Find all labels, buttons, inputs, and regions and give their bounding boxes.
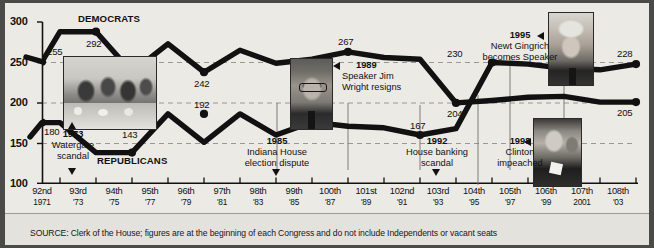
x-axis-label-99th: 99th '85 [274, 186, 314, 207]
x-axis-label-100th: 100th '87 [310, 186, 350, 207]
x-axis-label-97th: 97th '81 [202, 186, 242, 207]
x-axis-label-96th: 96th '79 [166, 186, 206, 207]
annotation-1985-year: 1985 [222, 136, 332, 147]
annotation-1992: 1992 House banking scandal [385, 136, 489, 169]
x-axis-label-106th: 106th '99 [526, 186, 566, 207]
annotation-1989-line2: Wright resigns [342, 82, 401, 92]
x-axis-label-92nd: 92nd 1971 [22, 186, 62, 207]
series-label-democrats: DEMOCRATS [78, 13, 140, 24]
x-axis-label-98th: 98th '83 [238, 186, 278, 207]
annotation-1973-pointer-down-icon [68, 168, 76, 175]
x-axis-label-107th: 107th 2001 [562, 186, 602, 207]
annotation-1989: 1989 Speaker Jim Wright resigns [342, 60, 448, 93]
point-label-democrats-205: 205 [617, 107, 632, 118]
point-label-republicans-192: 192 [194, 99, 209, 110]
x-congress-13: 105th [499, 186, 521, 196]
annotation-1989-pointer-left-icon [333, 62, 340, 70]
x-congress-7: 99th [286, 186, 303, 196]
photo-watergate-hearings [63, 56, 157, 130]
point-label-republicans-230: 230 [447, 48, 462, 59]
x-year-12: '95 [454, 197, 494, 207]
x-congress-14: 106th [535, 186, 557, 196]
annotation-1985-pointer-down-icon [272, 169, 280, 176]
x-year-11: '93 [418, 197, 458, 207]
annotation-1985-line2: election dispute [245, 158, 310, 168]
y-tick-label-250: 250 [10, 56, 27, 68]
annotation-1995-year: 1995 [464, 30, 576, 41]
photo-detail [124, 108, 133, 116]
annotation-1973-year: 1973 [35, 129, 111, 140]
x-congress-16: 108th [607, 186, 629, 196]
annotation-1995-line2: becomes Speaker [483, 52, 558, 62]
x-year-1: '73 [58, 197, 98, 207]
x-axis-label-104th: 104th '95 [454, 186, 494, 207]
annotation-1989-line1: Speaker Jim [342, 71, 394, 81]
annotation-1973-pointer-up-icon [68, 122, 76, 129]
x-year-6: '83 [238, 197, 278, 207]
photo-eyeglasses [299, 83, 327, 92]
annotation-1995: 1995 Newt Gingrich becomes Speaker [464, 30, 576, 63]
x-axis-label-105th: 105th '97 [490, 186, 530, 207]
point-label-democrats-242: 242 [194, 78, 209, 89]
x-congress-15: 107th [571, 186, 593, 196]
annotation-1998-line1: Clinton [506, 147, 535, 157]
annotation-1998-year: 1998 [487, 136, 553, 147]
annotation-1995-line1: Newt Gingrich [491, 41, 549, 51]
x-congress-0: 92nd [32, 186, 51, 196]
x-congress-4: 96th [178, 186, 195, 196]
x-year-8: '87 [310, 197, 350, 207]
annotation-1989-year: 1989 [356, 60, 448, 71]
x-congress-8: 100th [319, 186, 341, 196]
annotation-1992-year: 1992 [385, 136, 489, 147]
annotation-1973-line1: Watergate [52, 140, 95, 150]
photo-detail [98, 109, 108, 116]
x-congress-9: 101st [355, 186, 376, 196]
annotation-1998: 1998 Clinton impeached [487, 136, 553, 169]
x-year-2: '75 [94, 197, 134, 207]
x-year-0: 1971 [22, 197, 62, 207]
annotation-1985-line1: Indiana House [247, 147, 307, 157]
x-congress-2: 94th [106, 186, 123, 196]
annotation-1992-line1: House banking [406, 147, 468, 157]
x-year-13: '97 [490, 197, 530, 207]
x-year-3: '77 [130, 197, 170, 207]
annotation-1998-line2: impeached [497, 158, 542, 168]
series-left-stubs [26, 57, 42, 137]
source-note: SOURCE: Clerk of the House; figures are … [30, 228, 497, 238]
x-congress-5: 97th [214, 186, 231, 196]
x-year-14: '99 [526, 197, 566, 207]
annotation-1973: 1973 Watergate scandal [35, 129, 111, 162]
x-congress-6: 98th [250, 186, 267, 196]
point-label-democrats-292: 292 [86, 38, 101, 49]
x-year-10: '91 [382, 197, 422, 207]
x-congress-11: 103rd [427, 186, 449, 196]
x-congress-3: 95th [142, 186, 159, 196]
annotation-1995-pointer-left-icon [537, 32, 544, 40]
chart-figure: 300 250 200 150 100 DEMOCRATS REPUBLICAN… [0, 0, 654, 248]
x-axis-label-93rd: 93rd '73 [58, 186, 98, 207]
x-axis-label-101st: 101st '89 [346, 186, 386, 207]
annotation-1973-line2: scandal [57, 151, 89, 161]
x-year-9: '89 [346, 197, 386, 207]
photo-necktie [569, 68, 576, 85]
x-axis-label-95th: 95th '77 [130, 186, 170, 207]
annotation-1998-pointer-left-icon [524, 138, 531, 146]
x-year-4: '79 [166, 197, 206, 207]
annotation-1992-line2: scandal [421, 158, 453, 168]
x-axis-label-102nd: 102nd '91 [382, 186, 422, 207]
photo-necktie [308, 111, 315, 129]
x-congress-12: 104th [463, 186, 485, 196]
x-congress-1: 93rd [69, 186, 86, 196]
x-congress-10: 102nd [390, 186, 414, 196]
x-axis-label-94th: 94th '75 [94, 186, 134, 207]
x-year-7: '85 [274, 197, 314, 207]
point-label-republicans-228: 228 [617, 48, 632, 59]
point-label-republicans-167: 167 [410, 120, 425, 131]
y-tick-label-300: 300 [10, 15, 27, 27]
photo-jim-wright [290, 58, 333, 130]
x-axis-label-103rd: 103rd '93 [418, 186, 458, 207]
photo-detail [74, 107, 82, 115]
y-tick-label-200: 200 [10, 96, 27, 108]
y-tick-label-150: 150 [10, 137, 27, 149]
x-year-16: '03 [598, 197, 638, 207]
